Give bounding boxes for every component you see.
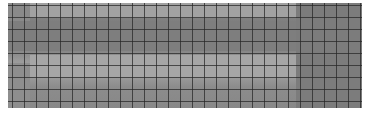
grid-overlay xyxy=(8,3,362,108)
grid-texture-panel xyxy=(8,3,362,108)
